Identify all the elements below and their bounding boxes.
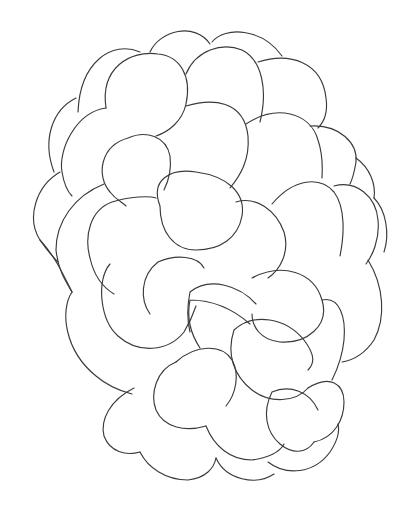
background (0, 0, 420, 513)
raspberry-illustration (0, 0, 420, 513)
